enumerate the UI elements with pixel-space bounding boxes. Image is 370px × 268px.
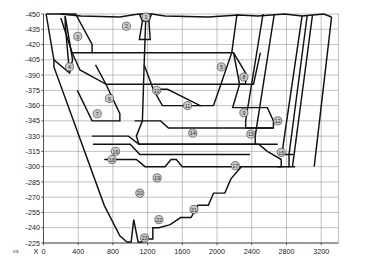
x-tick-label: 3200 bbox=[313, 247, 329, 256]
marker-label: 17 bbox=[232, 163, 238, 169]
y-tick-label: -435 bbox=[26, 25, 40, 34]
x-axis-labels: 0400800120016002000240028003200 bbox=[42, 243, 330, 256]
x-axis-letter-label: X bbox=[34, 247, 39, 256]
marker-label: 19 bbox=[154, 175, 160, 181]
annotation-marker-20[interactable]: 20 bbox=[136, 189, 144, 197]
annotation-marker-15[interactable]: 15 bbox=[277, 148, 285, 156]
y-tick-label: -420 bbox=[26, 40, 40, 49]
marker-label: 8 bbox=[242, 74, 245, 80]
annotation-marker-2[interactable]: 2 bbox=[122, 22, 130, 30]
marker-label: 22 bbox=[156, 217, 162, 223]
annotation-marker-22[interactable]: 22 bbox=[155, 215, 163, 223]
marker-label: 1 bbox=[144, 14, 147, 20]
annotation-marker-4[interactable]: 4 bbox=[65, 63, 73, 71]
marker-label: 18 bbox=[109, 157, 115, 163]
annotation-marker-12[interactable]: 12 bbox=[274, 117, 282, 125]
origin-axis-indicator: ⇨X bbox=[13, 247, 39, 257]
section-line-right-wall-3 bbox=[283, 16, 302, 154]
annotation-marker-7[interactable]: 7 bbox=[93, 110, 101, 118]
section-line-ground-surface bbox=[46, 14, 331, 17]
marker-label: 13 bbox=[248, 131, 254, 137]
section-line-right-wall-5 bbox=[293, 15, 313, 167]
series-layer bbox=[46, 14, 331, 242]
marker-label: 2 bbox=[125, 23, 128, 29]
cross-section-figure: -450-435-420-405-390-375-360-345-330-315… bbox=[0, 0, 370, 268]
marker-label: 10 bbox=[154, 88, 160, 94]
y-tick-label: -255 bbox=[26, 208, 40, 217]
marker-label: 4 bbox=[68, 64, 71, 70]
section-line-right-wall-2 bbox=[255, 14, 278, 144]
y-tick-label: -450 bbox=[26, 10, 40, 19]
annotation-marker-14[interactable]: 14 bbox=[189, 129, 197, 137]
x-tick-label: 2000 bbox=[209, 247, 225, 256]
marker-label: 6 bbox=[108, 96, 111, 102]
marker-label: 3 bbox=[76, 34, 79, 40]
marker-label: 5 bbox=[220, 64, 223, 70]
annotation-marker-8[interactable]: 8 bbox=[240, 73, 248, 81]
annotation-marker-19[interactable]: 19 bbox=[153, 174, 161, 182]
annotation-marker-10[interactable]: 10 bbox=[153, 86, 161, 94]
x-tick-label: 1200 bbox=[140, 247, 156, 256]
y-tick-label: -285 bbox=[26, 178, 40, 187]
marker-label: 7 bbox=[96, 111, 99, 117]
section-line-pit-floor-20-23 bbox=[127, 167, 242, 242]
x-tick-label: 0 bbox=[42, 247, 46, 256]
annotation-marker-13[interactable]: 13 bbox=[247, 130, 255, 138]
y-tick-label: -240 bbox=[26, 223, 40, 232]
annotation-marker-9[interactable]: 9 bbox=[240, 109, 248, 117]
marker-label: 23 bbox=[142, 235, 148, 241]
y-axis-labels: -450-435-420-405-390-375-360-345-330-315… bbox=[26, 10, 44, 248]
marker-label: 9 bbox=[242, 110, 245, 116]
marker-label: 21 bbox=[191, 207, 197, 213]
annotation-marker-3[interactable]: 3 bbox=[74, 32, 82, 40]
x-tick-label: 1600 bbox=[174, 247, 190, 256]
cross-section-svg: -450-435-420-405-390-375-360-345-330-315… bbox=[0, 0, 370, 268]
section-line-right-wall-outer bbox=[314, 17, 331, 167]
y-tick-label: -360 bbox=[26, 101, 40, 110]
axis-arrow-icon: ⇨ bbox=[13, 247, 19, 256]
marker-label: 20 bbox=[137, 190, 143, 196]
y-tick-label: -330 bbox=[26, 132, 40, 141]
annotation-marker-5[interactable]: 5 bbox=[217, 63, 225, 71]
marker-label: 12 bbox=[275, 118, 281, 124]
x-tick-label: 2400 bbox=[244, 247, 260, 256]
x-tick-label: 800 bbox=[107, 247, 119, 256]
annotation-marker-1[interactable]: 1 bbox=[142, 13, 150, 21]
x-tick-label: 2800 bbox=[278, 247, 294, 256]
y-tick-label: -315 bbox=[26, 147, 40, 156]
y-tick-label: -300 bbox=[26, 162, 40, 171]
annotation-marker-11[interactable]: 11 bbox=[183, 102, 191, 110]
x-tick-label: 400 bbox=[72, 247, 84, 256]
section-line-bench-16-18 bbox=[92, 136, 256, 144]
annotation-marker-18[interactable]: 18 bbox=[108, 155, 116, 163]
annotation-marker-21[interactable]: 21 bbox=[190, 205, 198, 213]
annotation-marker-6[interactable]: 6 bbox=[105, 94, 113, 102]
marker-label: 14 bbox=[190, 130, 196, 136]
annotation-marker-16[interactable]: 16 bbox=[111, 147, 119, 155]
marker-label: 15 bbox=[278, 150, 284, 156]
annotation-marker-23[interactable]: 23 bbox=[140, 234, 148, 242]
y-tick-label: -375 bbox=[26, 86, 40, 95]
y-tick-label: -270 bbox=[26, 193, 40, 202]
y-tick-label: -390 bbox=[26, 71, 40, 80]
annotation-marker-17[interactable]: 17 bbox=[231, 162, 239, 170]
y-tick-label: -345 bbox=[26, 116, 40, 125]
section-line-bench-17 bbox=[104, 160, 289, 167]
marker-label: 11 bbox=[185, 103, 191, 109]
marker-label: 16 bbox=[113, 149, 119, 155]
y-tick-label: -405 bbox=[26, 55, 40, 64]
